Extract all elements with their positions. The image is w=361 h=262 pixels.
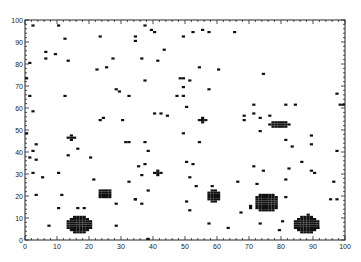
data-cell bbox=[140, 174, 143, 176]
cluster-cell bbox=[265, 203, 268, 205]
data-cell bbox=[111, 57, 114, 59]
cluster-cell bbox=[294, 220, 297, 222]
data-cell bbox=[118, 90, 121, 92]
cluster-cell bbox=[67, 227, 70, 229]
cluster-cell bbox=[89, 225, 92, 227]
data-cell bbox=[127, 95, 130, 97]
data-cell bbox=[60, 194, 63, 196]
data-cell bbox=[31, 172, 34, 174]
tick-label: 0 bbox=[23, 243, 27, 250]
data-cell bbox=[329, 198, 332, 200]
data-cell bbox=[57, 207, 60, 209]
cluster-cell bbox=[262, 196, 265, 198]
data-cell bbox=[76, 207, 79, 209]
cluster-cell bbox=[278, 121, 281, 123]
data-cell bbox=[339, 104, 342, 106]
tick-label: 60 bbox=[213, 243, 221, 250]
cluster-cell bbox=[79, 222, 82, 224]
cluster-cell bbox=[67, 225, 70, 227]
data-cell bbox=[153, 31, 156, 33]
cluster-cell bbox=[275, 126, 278, 128]
data-cell bbox=[31, 150, 34, 152]
cluster-cell bbox=[310, 216, 313, 218]
cluster-cell bbox=[271, 123, 274, 125]
cross-cell bbox=[70, 134, 73, 136]
cluster-cell bbox=[313, 227, 316, 229]
cluster-cell bbox=[310, 222, 313, 224]
cluster-cell bbox=[307, 231, 310, 233]
cross-cell bbox=[67, 137, 70, 139]
data-cell bbox=[137, 165, 140, 167]
data-cell bbox=[143, 141, 146, 143]
cluster-cell bbox=[73, 222, 76, 224]
cluster-cell bbox=[262, 205, 265, 207]
data-cell bbox=[182, 77, 185, 79]
cluster-cell bbox=[86, 227, 89, 229]
cluster-cell bbox=[300, 227, 303, 229]
data-cell bbox=[179, 77, 182, 79]
cluster-cell bbox=[303, 216, 306, 218]
cluster-cell bbox=[275, 198, 278, 200]
data-cell bbox=[28, 156, 31, 158]
cluster-cell bbox=[294, 225, 297, 227]
cluster-cell bbox=[268, 123, 271, 125]
data-cell bbox=[147, 189, 150, 191]
data-cell bbox=[124, 141, 127, 143]
cluster-cell bbox=[86, 225, 89, 227]
cluster-cell bbox=[76, 229, 79, 231]
cluster-cell bbox=[211, 200, 214, 202]
cluster-cell bbox=[89, 220, 92, 222]
cluster-cell bbox=[307, 225, 310, 227]
cluster-cell bbox=[278, 123, 281, 125]
tick-label: 30 bbox=[117, 243, 125, 250]
data-cell bbox=[67, 154, 70, 156]
cluster-cell bbox=[271, 121, 274, 123]
cluster-cell bbox=[214, 198, 217, 200]
data-cell bbox=[57, 172, 60, 174]
cluster-cell bbox=[307, 227, 310, 229]
cluster-cell bbox=[303, 222, 306, 224]
cluster-cell bbox=[102, 192, 105, 194]
cluster-cell bbox=[73, 218, 76, 220]
cluster-cell bbox=[214, 194, 217, 196]
cluster-cell bbox=[265, 205, 268, 207]
cluster-cell bbox=[303, 225, 306, 227]
data-cell bbox=[307, 214, 310, 216]
cluster-cell bbox=[310, 220, 313, 222]
data-cell bbox=[207, 222, 210, 224]
cluster-cell bbox=[217, 196, 220, 198]
cluster-cell bbox=[310, 225, 313, 227]
cluster-cell bbox=[83, 216, 86, 218]
data-cell bbox=[99, 119, 102, 121]
cluster-cell bbox=[108, 189, 111, 191]
plot-frame bbox=[25, 20, 345, 240]
data-cell bbox=[259, 117, 262, 119]
data-cell bbox=[335, 93, 338, 95]
data-cell bbox=[143, 24, 146, 26]
y-axis: 0102030405060708090100 bbox=[11, 17, 345, 244]
data-cell bbox=[188, 176, 191, 178]
data-cell bbox=[153, 112, 156, 114]
cluster-cell bbox=[211, 189, 214, 191]
cluster-cell bbox=[303, 218, 306, 220]
cluster-cell bbox=[86, 220, 89, 222]
cluster-cell bbox=[271, 205, 274, 207]
cluster-cell bbox=[105, 189, 108, 191]
cluster-cell bbox=[89, 227, 92, 229]
cross-cell bbox=[159, 172, 162, 174]
cluster-cell bbox=[294, 227, 297, 229]
cross-cell bbox=[70, 139, 73, 141]
data-cell bbox=[185, 161, 188, 163]
data-cell bbox=[156, 60, 159, 62]
cluster-cell bbox=[207, 198, 210, 200]
data-cell bbox=[47, 225, 50, 227]
data-cell bbox=[44, 51, 47, 53]
cluster-cell bbox=[303, 220, 306, 222]
data-cell bbox=[191, 163, 194, 165]
cluster-cell bbox=[313, 225, 316, 227]
cluster-cell bbox=[297, 229, 300, 231]
cluster-cell bbox=[255, 205, 258, 207]
cluster-cell bbox=[83, 231, 86, 233]
data-cell bbox=[259, 130, 262, 132]
cluster-cell bbox=[70, 218, 73, 220]
